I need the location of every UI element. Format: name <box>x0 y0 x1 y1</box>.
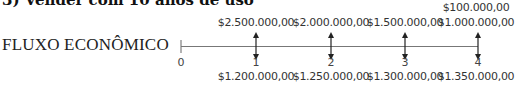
period-label-2: 2 <box>328 56 335 69</box>
outflow-period-2: $1.250.000,00 <box>293 70 370 83</box>
inflow-period-4: $1.000.000,00 <box>438 16 515 29</box>
outflow-period-3: $1.300.000,00 <box>367 70 444 83</box>
inflow-period-2: $2.000.000,00 <box>293 16 370 29</box>
outflow-period-1: $1.200.000,00 <box>218 70 295 83</box>
period-label-4: 4 <box>475 56 482 69</box>
cash-flow-diagram: 0 $2.500.000,00 1 $1.200.000,00 $2.000.0… <box>0 0 515 89</box>
period-label-1: 1 <box>253 56 260 69</box>
inflow-period-3: $1.500.000,00 <box>367 16 444 29</box>
outflow-period-4: $1.350.000,00 <box>438 70 515 83</box>
period-label-3: 3 <box>402 56 409 69</box>
inflow-period-1: $2.500.000,00 <box>218 16 295 29</box>
inflow-period-4-salvage: $100.000,00 <box>443 1 510 14</box>
period-label-0: 0 <box>178 56 185 69</box>
